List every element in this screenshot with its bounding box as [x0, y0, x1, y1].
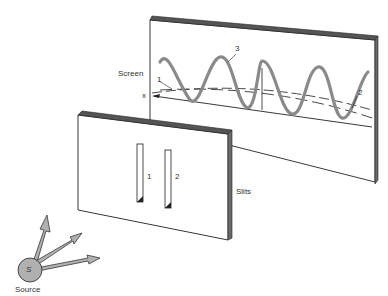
curve-2-label: 2: [358, 89, 362, 97]
curve-3-label: 3: [235, 45, 239, 53]
slit-2-label: 2: [175, 173, 179, 181]
slits-panel: [78, 111, 232, 240]
source-label: Source: [15, 286, 40, 294]
double-slit-diagram: [0, 0, 388, 296]
curve-1-label: 1: [157, 76, 161, 84]
slits-label: Slits: [236, 188, 251, 196]
slit-1-label: 1: [147, 173, 151, 181]
x-axis-label: x: [142, 92, 146, 100]
slit-1: [137, 144, 143, 202]
source-symbol: S: [26, 266, 31, 274]
slit-2: [165, 150, 171, 208]
screen-label: Screen: [118, 70, 143, 78]
